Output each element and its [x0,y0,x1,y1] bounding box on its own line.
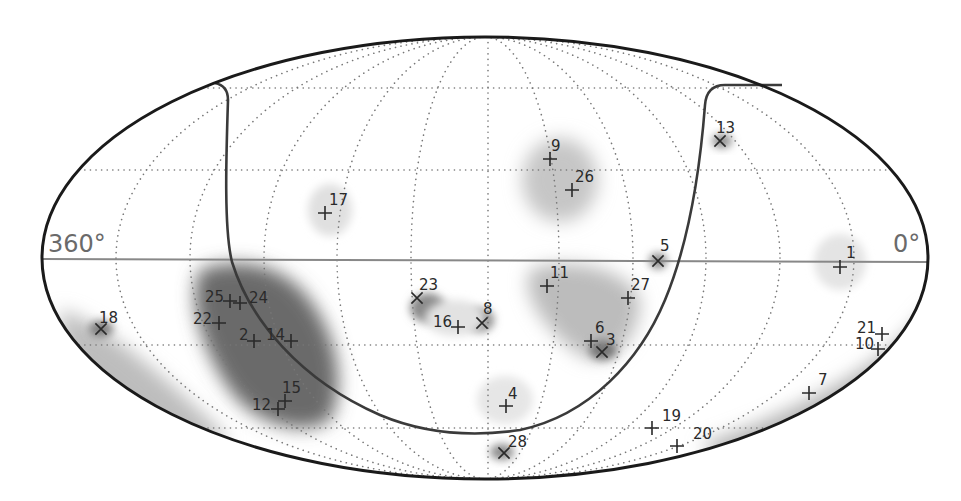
source-label: 1 [846,244,856,262]
source-label: 6 [595,319,605,337]
source-label: 11 [550,264,569,282]
source-label: 7 [818,371,828,389]
source-label: 23 [419,276,438,294]
axis-label-left: 360° [48,230,106,258]
source-label: 22 [193,310,212,328]
source-label: 10 [855,335,874,353]
source-label: 20 [693,425,712,443]
source-label: 13 [716,119,735,137]
plus-marker-icon [875,327,889,341]
source-label: 2 [239,326,249,344]
source-label: 3 [606,331,616,349]
source-label: 16 [433,313,452,331]
source-label: 28 [508,433,527,451]
source-label: 12 [252,396,271,414]
source-label: 8 [483,300,493,318]
source-label: 14 [266,326,285,344]
sky-map: 360° 0° 12345678910111213141516171819202… [0,0,961,501]
source-label: 19 [662,407,681,425]
source-label: 17 [329,191,348,209]
source-19: 19 [645,407,681,435]
source-label: 5 [660,237,670,255]
source-label: 26 [575,168,594,186]
source-label: 24 [249,289,268,307]
axis-label-right: 0° [893,230,920,258]
equator-line [42,259,928,262]
plus-marker-icon [670,439,684,453]
source-label: 9 [551,137,561,155]
source-label: 15 [282,379,301,397]
source-label: 4 [508,385,518,403]
source-label: 25 [205,288,224,306]
source-label: 27 [631,276,650,294]
density-shading [60,134,930,470]
source-label: 18 [99,309,118,327]
source-label: 21 [857,319,876,337]
plus-marker-icon [645,421,659,435]
